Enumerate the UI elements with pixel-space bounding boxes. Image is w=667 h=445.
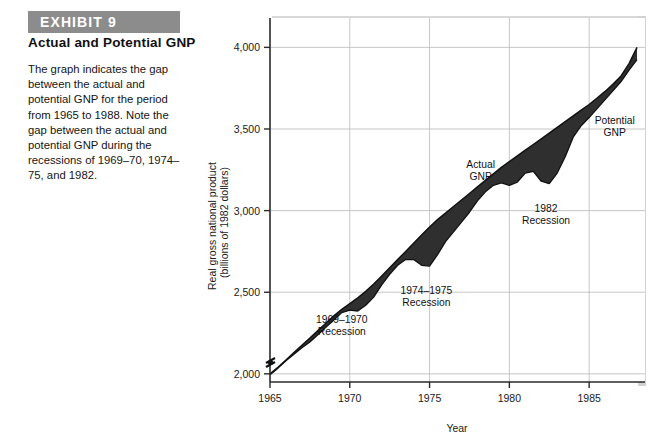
y-tick-label: 3,500	[234, 123, 260, 135]
caption-panel: EXHIBIT 9 Actual and Potential GNP The g…	[0, 0, 200, 445]
annotation: 1969–1970Recession	[316, 314, 368, 337]
annotation-line1: 1974–1975	[401, 285, 453, 296]
annotation-line1: 1982	[535, 203, 558, 214]
x-tick-label: 1965	[258, 392, 282, 404]
exhibit-number-label: EXHIBIT 9	[40, 14, 117, 30]
y-tick-label: 2,000	[234, 368, 260, 380]
gnp-chart: 2,0002,5003,0003,5004,000 19651970197519…	[200, 0, 667, 445]
y-tick-label: 4,000	[234, 41, 260, 53]
x-axis-ticks: 19651970197519801985	[258, 382, 601, 404]
x-tick-label: 1975	[418, 392, 442, 404]
chart-region: 2,0002,5003,0003,5004,000 19651970197519…	[200, 0, 667, 445]
x-tick-label: 1970	[338, 392, 362, 404]
exhibit-description: The graph indicates the gap between the …	[28, 62, 180, 184]
annotation-line2: Recession	[522, 215, 570, 226]
x-tick-label: 1985	[577, 392, 601, 404]
exhibit-page: EXHIBIT 9 Actual and Potential GNP The g…	[0, 0, 667, 445]
y-axis-title-line1: Real gross national product	[206, 162, 218, 290]
x-axis-title: Year	[446, 422, 468, 434]
exhibit-banner: EXHIBIT 9	[28, 11, 180, 33]
y-axis-title-line2: (billions of 1982 dollars)	[218, 167, 230, 278]
annotation: ActualGNP	[466, 159, 495, 182]
y-axis-ticks: 2,0002,5003,0003,5004,000	[234, 41, 270, 379]
annotation-line2: GNP	[469, 171, 491, 182]
annotation-line1: Actual	[466, 159, 495, 170]
annotation: 1974–1975Recession	[401, 285, 453, 308]
y-tick-label: 3,000	[234, 205, 260, 217]
annotation-line2: GNP	[604, 127, 626, 138]
annotation-line2: Recession	[318, 326, 366, 337]
x-tick-label: 1980	[498, 392, 522, 404]
exhibit-title: Actual and Potential GNP	[28, 35, 198, 50]
annotation-line1: Potential	[595, 115, 635, 126]
annotation-line2: Recession	[402, 297, 450, 308]
y-tick-label: 2,500	[234, 286, 260, 298]
annotation-line1: 1969–1970	[316, 314, 368, 325]
y-axis-title: Real gross national product (billions of…	[206, 162, 230, 290]
